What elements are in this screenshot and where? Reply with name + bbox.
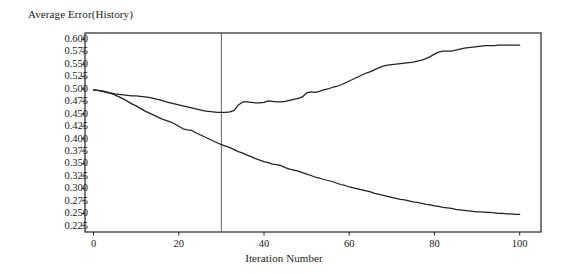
x-tick-label: 60 (344, 239, 355, 250)
x-tick-label: 80 (429, 239, 440, 250)
x-tick-label: 0 (91, 239, 96, 250)
x-tick-label: 20 (174, 239, 185, 250)
x-axis-tick-labels: 020406080100 (0, 0, 568, 274)
x-axis-title: Iteration Number (0, 252, 568, 264)
x-tick-label: 100 (512, 239, 528, 250)
chart-container: Average Error(History) 0.6000.5750.5500.… (0, 0, 568, 274)
x-tick-label: 40 (259, 239, 270, 250)
